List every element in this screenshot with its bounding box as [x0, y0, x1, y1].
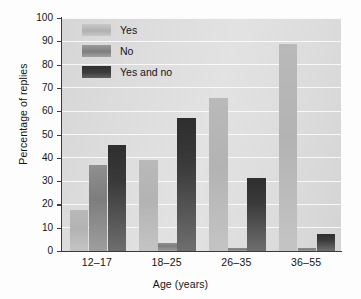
legend-swatch-yes-and-no-icon [82, 66, 111, 78]
gridline [62, 87, 341, 88]
y-axis-tick [57, 135, 61, 136]
y-axis-tick-label: 40 [27, 152, 53, 163]
y-axis-tick [57, 158, 61, 159]
bar [108, 145, 127, 251]
legend: Yes No Yes and no [82, 22, 172, 85]
x-axis-tick-label: 12–17 [62, 256, 132, 268]
gridline [62, 18, 341, 19]
bar [209, 98, 228, 251]
bar [70, 210, 89, 251]
bar [317, 234, 336, 251]
y-axis-tick-label: 90 [27, 35, 53, 46]
x-axis-tick-label: 36–55 [271, 256, 341, 268]
y-axis-tick-label: 30 [27, 175, 53, 186]
y-axis-tick-label: 20 [27, 198, 53, 209]
legend-label-yes-and-no: Yes and no [120, 66, 172, 78]
y-axis-tick [57, 181, 61, 182]
legend-item-no: No [82, 43, 172, 59]
y-axis-tick [57, 18, 61, 19]
bar [139, 160, 158, 251]
gridline [62, 134, 341, 135]
y-axis-ticks: 0102030405060708090100 [0, 0, 62, 299]
y-axis-tick [57, 111, 61, 112]
y-axis-tick-label: 0 [27, 245, 53, 256]
y-axis-tick-label: 10 [27, 222, 53, 233]
legend-swatch-yes-icon [82, 24, 111, 36]
legend-label-no: No [120, 45, 133, 57]
gridline [62, 157, 341, 158]
y-axis-tick-label: 50 [27, 129, 53, 140]
bar [89, 165, 108, 251]
bar [279, 44, 298, 251]
y-axis-tick [57, 88, 61, 89]
bar [158, 243, 177, 251]
legend-label-yes: Yes [120, 24, 137, 36]
y-axis-tick [57, 228, 61, 229]
x-axis-tick-label: 18–25 [132, 256, 202, 268]
legend-swatch-no-icon [82, 45, 111, 57]
bar [177, 118, 196, 251]
legend-item-yes-and-no: Yes and no [82, 64, 172, 80]
plot-area: Yes No Yes and no [62, 18, 341, 251]
y-axis-tick-label: 60 [27, 105, 53, 116]
y-axis-tick [57, 65, 61, 66]
y-axis-tick [57, 204, 61, 205]
x-axis-line [61, 251, 342, 252]
x-axis-tick-label: 26–35 [201, 256, 271, 268]
gridline [62, 111, 341, 112]
bar-chart: Percentage of replies Age (years) Yes No… [0, 0, 361, 299]
y-axis-tick-label: 100 [27, 12, 53, 23]
y-axis-tick [57, 251, 61, 252]
y-axis-tick-label: 80 [27, 59, 53, 70]
legend-item-yes: Yes [82, 22, 172, 38]
bar [247, 178, 266, 251]
y-axis-tick-label: 70 [27, 82, 53, 93]
y-axis-tick [57, 41, 61, 42]
